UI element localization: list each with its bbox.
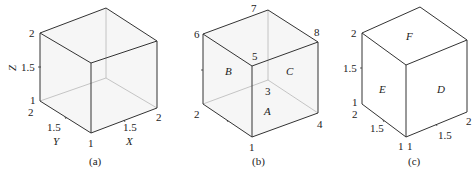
y-tick-label: 1.5	[370, 122, 384, 134]
vertex-label-5: 5	[252, 50, 258, 62]
x-tick-label: 2	[466, 115, 472, 127]
y-tick-label: 2	[352, 108, 358, 120]
vertex-label-7: 7	[251, 2, 257, 14]
face-label-c: C	[286, 65, 294, 77]
z-axis-label: Z	[6, 64, 18, 71]
face-label-b: B	[225, 65, 232, 77]
panel-c-caption: (c)	[408, 155, 421, 168]
y-tick-label: 1.5	[47, 121, 61, 133]
vertex-label-2: 2	[194, 108, 200, 120]
panel-a-caption: (a)	[89, 155, 102, 168]
panel-b-caption: (b)	[252, 155, 265, 168]
panel-a: 2 1.5 1 Z 2 1.5 Y 1 1.5 2 X (a)	[6, 8, 162, 168]
x-tick-label: 2	[156, 111, 162, 123]
z-tick-label: 1	[352, 96, 358, 108]
vertex-label-3: 3	[265, 85, 271, 97]
face-label-a: A	[263, 105, 271, 117]
vertex-label-4: 4	[317, 118, 323, 130]
z-tick-label: 1.5	[21, 61, 35, 73]
z-tick-label: 1	[30, 94, 36, 106]
vertex-label-6: 6	[194, 28, 200, 40]
y-tick-label: 2	[28, 106, 34, 118]
y-axis-label: Y	[53, 135, 61, 147]
y-tick-label: 1	[398, 140, 404, 152]
face-label-f: F	[405, 30, 413, 42]
z-tick-label: 2	[29, 27, 35, 39]
panel-c: 2 1.5 1 2 1.5 1 1 1.5 2 D E F (c)	[343, 7, 472, 168]
face-label-e: E	[378, 83, 386, 95]
panel-b: 1 2 3 4 5 6 7 8 A B C (b)	[194, 2, 323, 168]
x-axis-label: X	[125, 135, 134, 147]
z-tick-label: 1.5	[343, 62, 357, 74]
x-tick-label: 1.5	[438, 129, 452, 141]
x-tick-label: 1	[407, 140, 413, 152]
z-tick-label: 2	[351, 27, 357, 39]
x-tick-label: 1	[88, 137, 94, 149]
vertex-label-8: 8	[314, 26, 320, 38]
face-label-d: D	[436, 83, 445, 95]
figure-canvas: 2 1.5 1 Z 2 1.5 Y 1 1.5 2 X (a) 1	[0, 0, 474, 178]
x-tick-label: 1.5	[123, 121, 137, 133]
vertex-label-1: 1	[249, 141, 255, 153]
